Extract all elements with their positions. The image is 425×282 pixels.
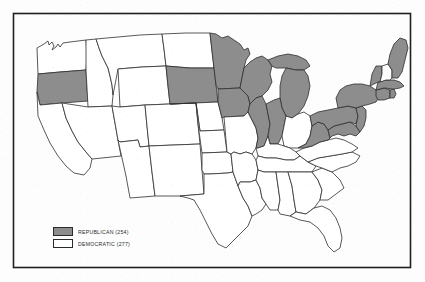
legend-row-republican: REPUBLICAN (254) bbox=[53, 226, 173, 237]
legend-swatch-republican bbox=[53, 227, 73, 236]
state-NM bbox=[149, 144, 204, 196]
state-NY bbox=[336, 84, 380, 108]
state-CO bbox=[145, 103, 200, 146]
legend-row-democratic: DEMOCRATIC (277) bbox=[53, 238, 173, 249]
state-NJ bbox=[356, 106, 366, 132]
state-OK bbox=[202, 152, 233, 174]
state-RI bbox=[390, 89, 396, 98]
legend-label-republican: REPUBLICAN (254) bbox=[78, 228, 129, 234]
legend-label-democratic: DEMOCRATIC (277) bbox=[78, 240, 130, 246]
state-ND bbox=[162, 33, 214, 68]
state-SD bbox=[166, 66, 218, 104]
map-legend: REPUBLICAN (254) DEMOCRATIC (277) bbox=[53, 226, 173, 250]
legend-swatch-democratic bbox=[53, 239, 73, 248]
state-FL bbox=[290, 206, 342, 252]
electoral-map-figure: REPUBLICAN (254) DEMOCRATIC (277) bbox=[0, 0, 425, 282]
states-layer bbox=[37, 33, 408, 252]
state-WA bbox=[37, 40, 87, 74]
state-MI-lower bbox=[280, 68, 310, 118]
state-WY bbox=[118, 66, 170, 107]
state-MI-upper bbox=[268, 54, 310, 70]
state-OR bbox=[37, 70, 88, 105]
